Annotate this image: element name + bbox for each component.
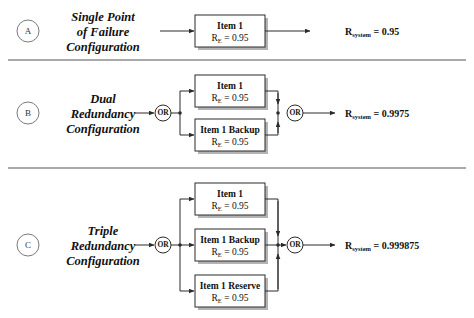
- section-title-0: Single Pointof FailureConfiguration: [66, 10, 140, 54]
- marker-letter: C: [25, 240, 31, 250]
- block-0: Item 1RE = 0.95: [195, 183, 268, 218]
- result-label: Rsystem = 0.999875: [345, 240, 419, 253]
- section-title-2: TripleRedundancyConfiguration: [66, 224, 140, 268]
- block-1: Item 1 BackupRE = 0.95: [195, 119, 268, 154]
- section-title-line: Single Point: [71, 10, 135, 24]
- input-bus-junction: [178, 111, 182, 115]
- or-gate-input: OR: [155, 105, 171, 121]
- block-2: Item 1 ReserveRE = 0.95: [195, 275, 268, 310]
- block-reliability: RE = 0.95: [211, 137, 248, 148]
- block-title: Item 1 Backup: [200, 235, 260, 245]
- section-title-line: Dual: [89, 92, 116, 106]
- or-gate-output: OR: [287, 237, 303, 253]
- block-title: Item 1 Backup: [200, 125, 260, 135]
- or-gate-input: OR: [155, 237, 171, 253]
- section-title-line: Triple: [88, 224, 119, 238]
- section-marker-a: A: [17, 20, 39, 42]
- section-c: CTripleRedundancyConfigurationItem 1RE =…: [17, 183, 419, 310]
- diagram-canvas: ASingle Pointof FailureConfigurationItem…: [0, 0, 474, 318]
- block-reliability: RE = 0.95: [211, 247, 248, 258]
- section-marker-b: B: [17, 102, 39, 124]
- output-bus-junction: [276, 243, 280, 247]
- marker-letter: A: [25, 26, 32, 36]
- section-b: BDualRedundancyConfigurationItem 1RE = 0…: [17, 75, 409, 154]
- section-a: ASingle Pointof FailureConfigurationItem…: [17, 10, 399, 54]
- output-bus-junction: [276, 111, 280, 115]
- result-label: Rsystem = 0.95: [345, 26, 399, 39]
- section-title-line: of Failure: [77, 25, 130, 39]
- reliability-block-diagram: ASingle Pointof FailureConfigurationItem…: [0, 0, 474, 318]
- section-title-line: Configuration: [66, 40, 140, 54]
- block-title: Item 1 Reserve: [200, 281, 261, 291]
- gate-label: OR: [157, 108, 169, 117]
- gate-label: OR: [157, 240, 169, 249]
- section-title-line: Configuration: [66, 254, 140, 268]
- section-title-1: DualRedundancyConfiguration: [66, 92, 140, 136]
- block-1: Item 1 BackupRE = 0.95: [195, 229, 268, 264]
- block-0: Item 1RE = 0.95: [195, 15, 268, 50]
- block-reliability: RE = 0.95: [211, 33, 248, 44]
- section-title-line: Redundancy: [70, 107, 136, 121]
- result-label: Rsystem = 0.9975: [345, 108, 409, 121]
- block-title: Item 1: [217, 21, 243, 31]
- block-title: Item 1: [217, 189, 243, 199]
- block-reliability: RE = 0.95: [211, 93, 248, 104]
- input-bus-junction: [178, 243, 182, 247]
- gate-label: OR: [289, 108, 301, 117]
- block-0: Item 1RE = 0.95: [195, 75, 268, 110]
- or-gate-output: OR: [287, 105, 303, 121]
- section-title-line: Redundancy: [70, 239, 136, 253]
- block-reliability: RE = 0.95: [211, 201, 248, 212]
- marker-letter: B: [25, 108, 31, 118]
- section-marker-c: C: [17, 234, 39, 256]
- section-title-line: Configuration: [66, 122, 140, 136]
- gate-label: OR: [289, 240, 301, 249]
- block-reliability: RE = 0.95: [211, 293, 248, 304]
- block-title: Item 1: [217, 81, 243, 91]
